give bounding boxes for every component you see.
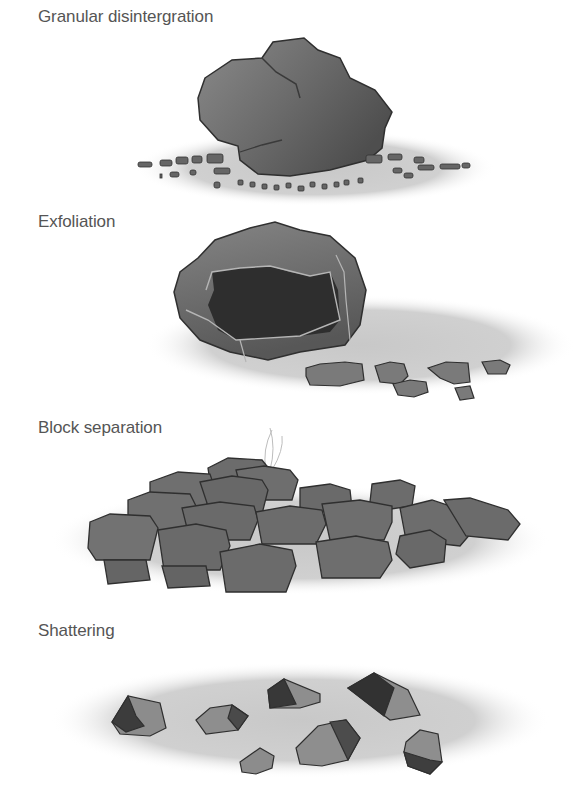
exfoliation-illustration	[145, 222, 575, 400]
panel-label: Granular disintergration	[38, 7, 213, 27]
panel-label: Block separation	[38, 418, 162, 438]
panel-label: Shattering	[38, 621, 115, 641]
shattering-illustration	[50, 662, 550, 778]
exfoliated-interior	[208, 266, 340, 340]
panel-label: Exfoliation	[38, 212, 115, 232]
block-separation-illustration	[50, 428, 550, 595]
weathering-illustration	[0, 0, 576, 785]
granular-disintegration-illustration	[135, 38, 495, 206]
